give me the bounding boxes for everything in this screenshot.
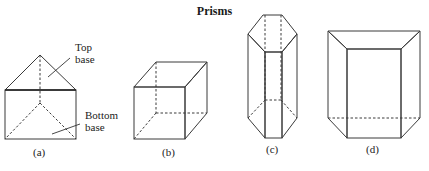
front-face xyxy=(347,49,401,138)
bottom-base-label-line2: base xyxy=(85,121,105,133)
front-face xyxy=(265,52,282,138)
bottom-base-label-line1: Bottom xyxy=(85,109,118,121)
caption-b: (b) xyxy=(162,146,175,159)
caption-c: (c) xyxy=(266,143,279,156)
top-face xyxy=(328,31,420,49)
left-face xyxy=(328,31,347,138)
top-base-label-line1: Top xyxy=(75,41,92,53)
prisms-diagram: Top base Bottom base (a) (b) (c) (d) xyxy=(0,0,429,171)
front-face xyxy=(134,87,185,139)
figure-c-hexagonal-prism: (c) xyxy=(248,15,297,156)
side-face xyxy=(185,62,207,139)
top-hexagon-face xyxy=(248,15,297,52)
figure-b-cube: (b) xyxy=(134,62,207,159)
top-base-label-line2: base xyxy=(75,53,95,65)
caption-d: (d) xyxy=(366,143,379,156)
figure-a-triangular-prism: Top base Bottom base (a) xyxy=(5,41,118,159)
caption-a: (a) xyxy=(33,146,46,159)
right-face xyxy=(401,31,420,138)
figure-d-trapezoidal-prism: (d) xyxy=(328,31,420,156)
